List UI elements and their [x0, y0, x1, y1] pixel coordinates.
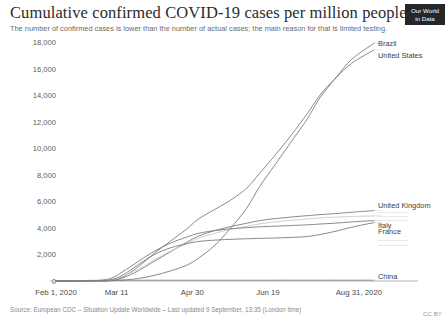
line-chart-svg [0, 38, 448, 286]
x-axis-tick-label: Apr 30 [181, 288, 204, 297]
series-line[interactable] [56, 50, 374, 281]
series-line[interactable] [56, 43, 374, 281]
series-line[interactable] [56, 211, 374, 281]
x-axis-tick-label: Jun 19 [256, 288, 279, 297]
license-note: CC BY [423, 310, 442, 317]
logo-line-2: in Data [405, 15, 445, 23]
source-note: Source: European CDC – Situation Update … [10, 306, 301, 313]
page-title: Cumulative confirmed COVID-19 cases per … [10, 3, 400, 23]
logo-line-1: Our World [405, 7, 445, 15]
our-world-in-data-logo[interactable]: Our World in Data [405, 4, 445, 25]
x-axis-tick-label: Aug 31, 2020 [336, 288, 382, 297]
x-axis-tick-label: Feb 1, 2020 [35, 288, 77, 297]
x-axis: Feb 1, 2020Mar 11Apr 30Jun 19Aug 31, 202… [0, 288, 448, 302]
series-line[interactable] [56, 223, 374, 281]
x-axis-tick-label: Mar 11 [105, 288, 129, 297]
chart-subtitle: The number of confirmed cases is lower t… [10, 24, 410, 33]
chart-page: Cumulative confirmed COVID-19 cases per … [0, 0, 448, 325]
series-line[interactable] [56, 221, 374, 281]
series-line[interactable] [56, 216, 374, 281]
plot-area [0, 38, 448, 286]
